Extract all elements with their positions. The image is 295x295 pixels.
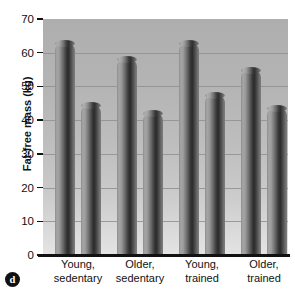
y-tick-70: 70 xyxy=(21,12,43,26)
bar-cap xyxy=(55,40,75,47)
x-axis-line xyxy=(38,254,290,257)
bar xyxy=(117,59,137,255)
y-tick-20: 20 xyxy=(21,181,43,195)
bar xyxy=(205,95,225,255)
y-axis-ticks: 010203040506070 xyxy=(0,0,43,295)
bar xyxy=(267,108,287,255)
bar-cap xyxy=(179,40,199,47)
bar xyxy=(143,113,163,255)
bar-cap xyxy=(267,105,287,112)
y-tick-label: 60 xyxy=(21,46,37,60)
bar-cap xyxy=(117,56,137,63)
bar-cap xyxy=(205,92,225,99)
x-group-label: Older,trained xyxy=(224,258,295,285)
bar-cap xyxy=(143,110,163,117)
y-tick-label: 50 xyxy=(21,79,37,93)
x-group-label-line2: trained xyxy=(224,272,295,286)
bar xyxy=(241,70,261,255)
plot-area xyxy=(43,19,288,255)
y-tick-10: 10 xyxy=(21,214,43,228)
panel-letter-badge: d xyxy=(5,272,20,287)
figure-panel: Fat-free mass (kg) 010203040506070 Young… xyxy=(0,0,295,295)
y-tick-label: 30 xyxy=(21,147,37,161)
bar-cap xyxy=(81,102,101,109)
x-group-label-line1: Older, xyxy=(224,258,295,272)
y-tick-label: 40 xyxy=(21,113,37,127)
bar-cap xyxy=(241,67,261,74)
bar xyxy=(81,105,101,255)
y-tick-50: 50 xyxy=(21,79,43,93)
y-tick-label: 20 xyxy=(21,181,37,195)
y-tick-30: 30 xyxy=(21,147,43,161)
y-tick-40: 40 xyxy=(21,113,43,127)
y-tick-label: 0 xyxy=(28,248,37,262)
x-axis-category-labels: Young,sedentaryOlder,sedentaryYoung,trai… xyxy=(43,258,288,294)
y-tick-label: 10 xyxy=(21,214,37,228)
y-tick-60: 60 xyxy=(21,46,43,60)
bar xyxy=(179,43,199,255)
gridline-60 xyxy=(43,53,288,54)
y-tick-label: 70 xyxy=(21,12,37,26)
bar xyxy=(55,43,75,255)
